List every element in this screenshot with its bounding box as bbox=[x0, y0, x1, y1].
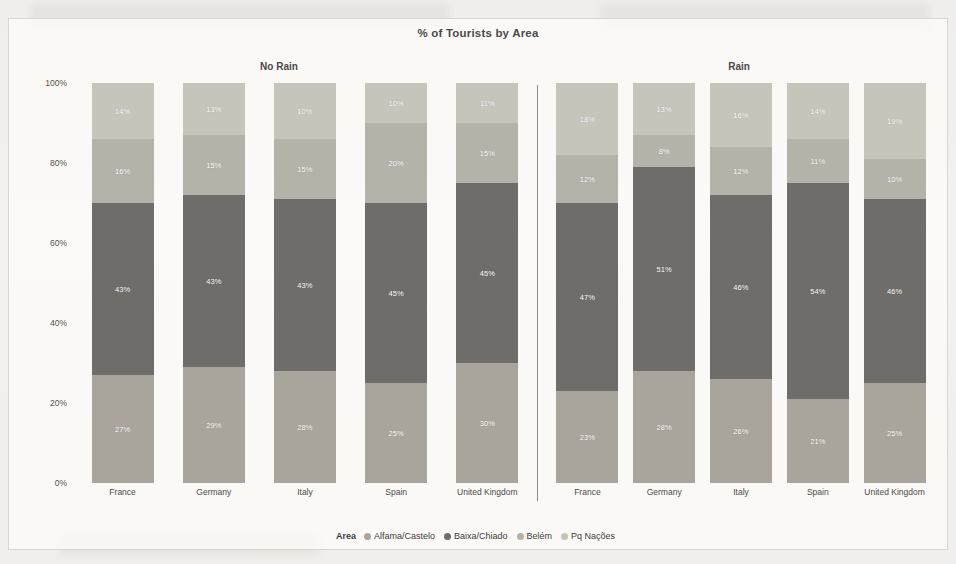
bar-segment-label: 43% bbox=[206, 277, 221, 286]
bar-segment[interactable]: 13% bbox=[633, 83, 695, 135]
legend-swatch-icon bbox=[517, 533, 524, 540]
plot-area: 0%20%40%60%80%100% 27%43%16%14%29%43%15%… bbox=[25, 83, 933, 503]
category-label: France bbox=[556, 487, 618, 505]
bar-segment-label: 11% bbox=[480, 99, 495, 108]
bar-segment[interactable]: 26% bbox=[710, 379, 772, 483]
bar-group[interactable]: 26%46%12%16% bbox=[710, 83, 772, 483]
bar-segment[interactable]: 28% bbox=[274, 371, 336, 483]
bar-segment-label: 27% bbox=[115, 425, 130, 434]
bar-segment[interactable]: 43% bbox=[183, 195, 245, 367]
bar-segment-label: 10% bbox=[887, 175, 902, 184]
category-label: Italy bbox=[710, 487, 772, 505]
bar-segment-label: 54% bbox=[810, 287, 825, 296]
bar-segment[interactable]: 15% bbox=[456, 123, 518, 183]
bar-segment[interactable]: 16% bbox=[710, 83, 772, 147]
legend-item[interactable]: Baixa/Chiado bbox=[444, 531, 508, 541]
bar-segment[interactable]: 15% bbox=[274, 139, 336, 199]
bar-segment[interactable]: 10% bbox=[864, 159, 926, 199]
bar-segment-label: 12% bbox=[580, 175, 595, 184]
category-label: United Kingdom bbox=[456, 487, 518, 505]
bar-segment-label: 51% bbox=[657, 265, 672, 274]
bar-segment[interactable]: 46% bbox=[710, 195, 772, 379]
bar-segment[interactable]: 21% bbox=[787, 399, 849, 483]
bar-group[interactable]: 30%45%15%11% bbox=[456, 83, 518, 483]
bar-segment-label: 11% bbox=[810, 157, 825, 166]
bar-segment[interactable]: 12% bbox=[710, 147, 772, 195]
bar-segment[interactable]: 28% bbox=[633, 371, 695, 483]
bar-segment-label: 46% bbox=[887, 287, 902, 296]
bar-group[interactable]: 25%45%20%10% bbox=[365, 83, 427, 483]
bar-segment-label: 10% bbox=[389, 99, 404, 108]
bar-segment[interactable]: 15% bbox=[183, 135, 245, 195]
chart-container: % of Tourists by Area No Rain Rain 0%20%… bbox=[8, 18, 948, 550]
bar-segment[interactable]: 14% bbox=[787, 83, 849, 139]
chart-title: % of Tourists by Area bbox=[9, 27, 947, 39]
bar-segment[interactable]: 43% bbox=[92, 203, 154, 375]
legend-swatch-icon bbox=[444, 533, 451, 540]
bar-segment[interactable]: 25% bbox=[365, 383, 427, 483]
bar-segment-label: 13% bbox=[657, 105, 672, 114]
y-axis: 0%20%40%60%80%100% bbox=[25, 83, 71, 483]
page-root: % of Tourists by Area No Rain Rain 0%20%… bbox=[0, 0, 956, 564]
bar-segment[interactable]: 45% bbox=[365, 203, 427, 383]
bar-segment[interactable]: 27% bbox=[92, 375, 154, 483]
bar-group[interactable]: 21%54%11%14% bbox=[787, 83, 849, 483]
bar-segment[interactable]: 16% bbox=[92, 139, 154, 203]
bar-segment[interactable]: 29% bbox=[183, 367, 245, 483]
bar-segment-label: 30% bbox=[480, 419, 495, 428]
bar-segment-label: 26% bbox=[733, 427, 748, 436]
bar-segment-label: 15% bbox=[206, 161, 221, 170]
bar-segment-label: 15% bbox=[297, 165, 312, 174]
category-label: Germany bbox=[633, 487, 695, 505]
legend-title: Area bbox=[336, 531, 356, 541]
bar-segment[interactable]: 47% bbox=[556, 203, 618, 391]
bar-segment[interactable]: 13% bbox=[183, 83, 245, 135]
bar-segment-label: 20% bbox=[389, 159, 404, 168]
legend-swatch-icon bbox=[561, 533, 568, 540]
category-label: Spain bbox=[365, 487, 427, 505]
bar-group[interactable]: 27%43%16%14% bbox=[92, 83, 154, 483]
bar-segment-label: 10% bbox=[297, 107, 312, 116]
legend-item[interactable]: Alfama/Castelo bbox=[364, 531, 435, 541]
bar-group[interactable]: 29%43%15%13% bbox=[183, 83, 245, 483]
bar-group[interactable]: 28%51%8%13% bbox=[633, 83, 695, 483]
bar-segment[interactable]: 46% bbox=[864, 199, 926, 383]
bar-segment[interactable]: 10% bbox=[274, 83, 336, 139]
legend-item[interactable]: Belém bbox=[517, 531, 553, 541]
bar-segment[interactable]: 20% bbox=[365, 123, 427, 203]
bar-segment[interactable]: 12% bbox=[556, 155, 618, 203]
bar-segment[interactable]: 11% bbox=[787, 139, 849, 183]
bar-segment[interactable]: 8% bbox=[633, 135, 695, 167]
bar-segment[interactable]: 10% bbox=[365, 83, 427, 123]
category-labels-rain: FranceGermanyItalySpainUnited Kingdom bbox=[549, 487, 933, 505]
bar-segment-label: 47% bbox=[580, 293, 595, 302]
bar-segment[interactable]: 23% bbox=[556, 391, 618, 483]
bar-segment[interactable]: 19% bbox=[864, 83, 926, 159]
bar-group[interactable]: 25%46%10%19% bbox=[864, 83, 926, 483]
bar-segment-label: 13% bbox=[206, 105, 221, 114]
bar-segment[interactable]: 43% bbox=[274, 199, 336, 371]
legend-swatch-icon bbox=[364, 533, 371, 540]
bar-segment-label: 21% bbox=[810, 437, 825, 446]
bars-no-rain: 27%43%16%14%29%43%15%13%28%43%15%10%25%4… bbox=[77, 83, 533, 483]
legend-item-label: Baixa/Chiado bbox=[454, 531, 508, 541]
bar-segment[interactable]: 14% bbox=[92, 83, 154, 139]
bar-segment[interactable]: 54% bbox=[787, 183, 849, 399]
category-label: United Kingdom bbox=[864, 487, 926, 505]
bar-group[interactable]: 23%47%12%18% bbox=[556, 83, 618, 483]
bar-group[interactable]: 28%43%15%10% bbox=[274, 83, 336, 483]
bar-segment-label: 18% bbox=[580, 115, 595, 124]
bar-segment-label: 23% bbox=[580, 433, 595, 442]
bar-segment[interactable]: 18% bbox=[556, 83, 618, 155]
y-axis-tick: 60% bbox=[50, 238, 67, 248]
y-axis-tick: 100% bbox=[45, 78, 67, 88]
panel-header-no-rain: No Rain bbox=[49, 61, 509, 72]
bar-segment[interactable]: 30% bbox=[456, 363, 518, 483]
bar-segment-label: 29% bbox=[206, 421, 221, 430]
bar-segment[interactable]: 11% bbox=[456, 83, 518, 123]
bar-segment[interactable]: 51% bbox=[633, 167, 695, 371]
bar-segment[interactable]: 45% bbox=[456, 183, 518, 363]
bar-segment-label: 16% bbox=[733, 111, 748, 120]
bar-segment[interactable]: 25% bbox=[864, 383, 926, 483]
legend-item[interactable]: Pq Nações bbox=[561, 531, 615, 541]
